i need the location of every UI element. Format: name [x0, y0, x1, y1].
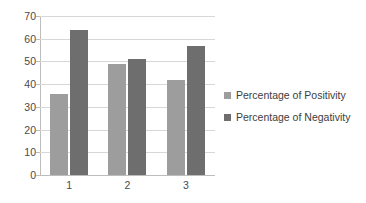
- gridline-0: [40, 175, 215, 176]
- bar-negativity-3: [187, 46, 205, 175]
- plot-area: [40, 16, 215, 175]
- legend-item-positivity[interactable]: Percentage of Positivity: [224, 86, 350, 104]
- x-tick-label-1: 1: [49, 180, 89, 191]
- legend-label: Percentage of Positivity: [236, 90, 346, 101]
- y-tick-label-20: 20: [0, 130, 36, 131]
- x-tick-label-2: 2: [108, 180, 148, 191]
- bar-negativity-1: [70, 30, 88, 175]
- legend-item-negativity[interactable]: Percentage of Negativity: [224, 108, 350, 126]
- y-tick-label-50: 50: [0, 61, 36, 62]
- bar-group-2: [98, 16, 156, 175]
- bar-group-1: [40, 16, 98, 175]
- y-tick-mark-0: [36, 175, 40, 176]
- chart-legend: Percentage of PositivityPercentage of Ne…: [224, 86, 350, 130]
- legend-label: Percentage of Negativity: [236, 112, 350, 123]
- y-tick-label-70: 70: [0, 16, 36, 17]
- bar-chart: 010203040506070 123 Percentage of Positi…: [0, 0, 366, 203]
- y-tick-label-30: 30: [0, 107, 36, 108]
- bar-positivity-1: [50, 94, 68, 175]
- x-tick-label-3: 3: [166, 180, 206, 191]
- legend-swatch-icon-positivity: [224, 92, 231, 99]
- y-tick-label-0: 0: [0, 175, 36, 176]
- y-tick-label-10: 10: [0, 152, 36, 153]
- bar-negativity-2: [128, 59, 146, 175]
- legend-swatch-icon-negativity: [224, 114, 231, 121]
- bar-positivity-2: [108, 64, 126, 175]
- y-tick-label-60: 60: [0, 39, 36, 40]
- y-tick-label-40: 40: [0, 84, 36, 85]
- bar-group-3: [157, 16, 215, 175]
- bar-positivity-3: [167, 80, 185, 175]
